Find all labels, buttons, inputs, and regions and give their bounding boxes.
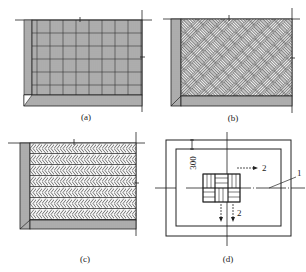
panel-a-left-border-strip — [24, 20, 32, 95]
panel-d-arrow-right-label: 2 — [262, 163, 267, 173]
panel-b-diagonal-weave-field — [181, 19, 292, 96]
panel-a-caption: (a) — [81, 112, 91, 122]
panel-a: (a) — [15, 10, 152, 122]
panel-b-bottom-border-strip — [181, 96, 292, 106]
panel-c: (c) — [8, 132, 145, 264]
panel-c-left-border-strip — [20, 143, 30, 229]
panel-b-caption: (b) — [228, 113, 239, 123]
panel-d-arrow-down-label: 2 — [237, 208, 242, 218]
panel-d-leader-label: 1 — [297, 168, 302, 178]
panel-d-arrow-down-1-head-icon — [219, 217, 223, 222]
panel-b: (b) — [163, 8, 300, 123]
panel-b-left-border-strip — [171, 19, 181, 106]
panel-a-basket-weave-field — [32, 20, 142, 95]
panel-d-caption: (d) — [223, 254, 234, 264]
panel-d: 300 2 — [155, 132, 305, 264]
figure-canvas: (a) (b) (c) 300 — [0, 0, 306, 272]
panel-d-dimension-label: 300 — [188, 156, 198, 170]
panel-d-leader-line — [269, 177, 296, 188]
panel-d-arrow-down-2-head-icon — [231, 217, 235, 222]
panel-c-caption: (c) — [80, 254, 90, 264]
panel-a-bottom-border-strip — [24, 95, 142, 106]
panel-c-bottom-border-strip — [30, 220, 136, 229]
panel-c-herringbone-field — [30, 143, 136, 220]
panel-d-arrow-right-head-icon — [253, 166, 258, 170]
panel-d-starter-tile-block — [203, 174, 240, 202]
